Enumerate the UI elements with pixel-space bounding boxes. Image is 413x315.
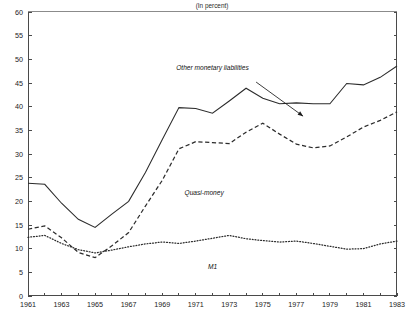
y-tick-label: 35 xyxy=(15,126,23,135)
series-label-quasi-money: Quasi-money xyxy=(185,189,225,197)
y-axis-ticks: 051015202530354045505560 xyxy=(15,8,397,301)
x-tick-label: 1969 xyxy=(154,300,170,309)
y-tick-label: 40 xyxy=(15,102,23,111)
y-tick-label: 15 xyxy=(15,221,23,230)
series-label-m1: M1 xyxy=(208,263,217,270)
y-tick-label: 5 xyxy=(19,268,23,277)
annotation-leader-line xyxy=(256,82,303,116)
series-line-m1 xyxy=(28,235,397,253)
x-tick-label: 1975 xyxy=(255,300,271,309)
y-tick-label: 10 xyxy=(15,244,23,253)
series-label-other-monetary-liabilities: Other monetary liabilities xyxy=(176,64,249,72)
x-tick-label: 1977 xyxy=(288,300,304,309)
line-chart: (In percent) 051015202530354045505560 19… xyxy=(0,0,413,315)
y-tick-label: 25 xyxy=(15,173,23,182)
chart-title: (In percent) xyxy=(196,2,229,10)
x-tick-label: 1961 xyxy=(20,300,36,309)
x-tick-label: 1979 xyxy=(322,300,338,309)
annotation-arrow-head xyxy=(298,111,304,116)
x-tick-label: 1973 xyxy=(221,300,237,309)
x-tick-label: 1965 xyxy=(87,300,103,309)
y-tick-label: 30 xyxy=(15,150,23,159)
series-line-quasi-money xyxy=(28,112,397,258)
series-group xyxy=(28,66,397,258)
chart-title-group: (In percent) xyxy=(28,2,397,12)
y-tick-label: 50 xyxy=(15,55,23,64)
x-tick-label: 1981 xyxy=(355,300,371,309)
x-tick-label: 1983 xyxy=(389,300,405,309)
x-tick-label: 1967 xyxy=(121,300,137,309)
y-tick-label: 45 xyxy=(15,79,23,88)
chart-container: (In percent) 051015202530354045505560 19… xyxy=(0,0,413,315)
y-tick-label: 20 xyxy=(15,197,23,206)
y-tick-label: 60 xyxy=(15,8,23,17)
x-axis-ticks: 1961196319651967196919711973197519771979… xyxy=(20,293,405,309)
x-tick-label: 1963 xyxy=(54,300,70,309)
series-line-other-monetary-liabilities xyxy=(28,66,397,227)
x-tick-label: 1971 xyxy=(188,300,204,309)
y-tick-label: 55 xyxy=(15,31,23,40)
series-annotations: Other monetary liabilitiesQuasi-moneyM1 xyxy=(176,64,303,271)
